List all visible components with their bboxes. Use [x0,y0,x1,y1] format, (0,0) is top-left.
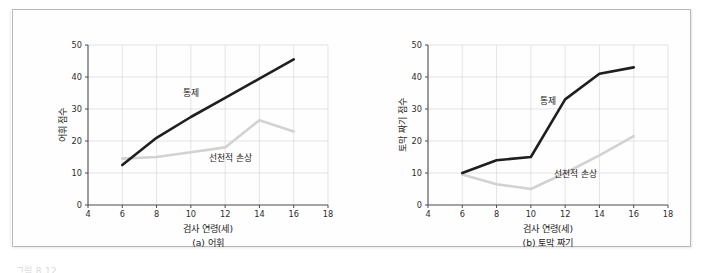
series-annotation-label: 통제 [540,96,556,106]
series-annotation-label: 선천적 손상 [209,152,252,163]
x-tick-label: 10 [186,209,196,219]
y-tick-label: 30 [411,104,421,114]
x-tick-label: 8 [154,209,159,219]
chart-panels: 010203040504681012141618통제선천적 손상검사 연령(세)… [12,9,691,247]
x-tick-label: 6 [459,209,464,219]
chart-panel-b: 010203040504681012141618통제선천적 손상검사 연령(세)… [352,9,692,247]
x-tick-label: 4 [85,209,90,219]
panel-caption: (b) 토막 짜기 [522,237,573,247]
series-annotation-label: 통제 [183,88,199,98]
y-tick-label: 20 [72,136,82,146]
x-tick-label: 10 [525,209,535,219]
y-tick-label: 0 [416,200,421,210]
figure-bottom-caption: 그림 8.12 [16,264,57,273]
x-axis-title: 검사 연령(세) [522,223,572,234]
x-tick-label: 8 [493,209,498,219]
line-chart-vocabulary: 010203040504681012141618통제선천적 손상검사 연령(세)… [12,9,352,247]
series-annotation-label: 선천적 손상 [554,168,597,179]
x-tick-label: 18 [662,209,672,219]
x-axis-title: 검사 연령(세) [183,223,233,234]
y-tick-label: 10 [411,168,421,178]
plot-area-a: 010203040504681012141618통제선천적 손상검사 연령(세)… [12,9,352,247]
y-tick-label: 40 [72,72,82,82]
gridlines [88,45,328,205]
y-tick-label: 50 [411,40,421,50]
y-tick-label: 30 [72,104,82,114]
x-tick-label: 16 [289,209,299,219]
plot-area-b: 010203040504681012141618통제선천적 손상검사 연령(세)… [352,9,692,247]
x-tick-label: 12 [559,209,569,219]
line-chart-block-design: 010203040504681012141618통제선천적 손상검사 연령(세)… [352,9,692,247]
x-tick-label: 14 [254,209,264,219]
y-tick-label: 0 [77,200,82,210]
y-tick-label: 10 [72,168,82,178]
chart-panel-a: 010203040504681012141618통제선천적 손상검사 연령(세)… [12,9,352,247]
x-tick-label: 18 [323,209,333,219]
y-axis-title: 토막 짜기 점수 [397,98,408,152]
x-tick-label: 4 [425,209,430,219]
figure-page: 010203040504681012141618통제선천적 손상검사 연령(세)… [0,0,710,273]
y-axis-title: 어휘 점수 [57,108,68,143]
x-tick-label: 12 [220,209,230,219]
x-tick-label: 16 [628,209,638,219]
y-tick-label: 40 [411,72,421,82]
x-tick-label: 6 [120,209,125,219]
x-tick-label: 14 [594,209,604,219]
panel-caption: (a) 어휘 [192,237,224,247]
scan-edge-shadow [9,10,11,246]
y-tick-label: 20 [411,136,421,146]
series-line [462,67,633,173]
y-tick-label: 50 [72,40,82,50]
